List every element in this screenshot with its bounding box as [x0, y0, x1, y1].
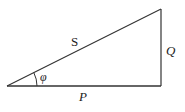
label-p: P	[78, 89, 87, 104]
power-triangle-diagram: S Q P φ	[0, 0, 185, 112]
label-s: S	[71, 34, 78, 49]
hypotenuse-line-s	[7, 9, 161, 86]
label-phi: φ	[40, 70, 47, 84]
angle-arc	[34, 73, 37, 86]
label-q: Q	[166, 43, 176, 58]
